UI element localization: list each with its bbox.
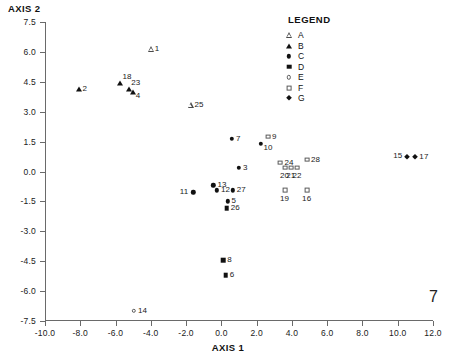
data-point-label: 15: [393, 151, 402, 160]
x-tick: [327, 321, 328, 326]
square-open-marker-icon: [282, 165, 287, 170]
legend-item-f: F: [282, 83, 331, 94]
data-point-label: 27: [237, 185, 246, 194]
data-point-label: 23: [131, 78, 140, 87]
data-point: [237, 165, 241, 169]
data-point: [148, 46, 154, 52]
legend-label: A: [296, 30, 304, 40]
legend-item-c: C: [282, 51, 331, 62]
x-tick: [151, 321, 152, 326]
data-point: [224, 206, 229, 211]
data-point-label: 25: [195, 100, 204, 109]
triangle-filled-marker-icon: [286, 43, 292, 48]
circle-filled-marker-icon: [215, 188, 219, 192]
y-tick: [40, 172, 45, 173]
data-point: [215, 188, 219, 192]
y-tick: [40, 261, 45, 262]
legend-symbol: [282, 41, 296, 51]
legend-rows: ABCDEFG: [282, 30, 331, 104]
data-point: [191, 190, 195, 194]
y-tick: [40, 112, 45, 113]
x-tick: [398, 321, 399, 326]
data-point: [289, 165, 294, 170]
square-filled-marker-icon: [224, 206, 229, 211]
data-point-label: 6: [230, 270, 235, 279]
square-filled-marker-icon: [287, 64, 292, 69]
data-point: [76, 86, 82, 91]
data-point-label: 18: [122, 72, 131, 81]
y-tick-label: 4.5: [24, 77, 36, 87]
data-point: [282, 188, 287, 193]
x-tick: [80, 321, 81, 326]
scatter-plot-figure: AXIS 2 AXIS 1 7.56.04.53.01.50.0-1.5-3.0…: [0, 0, 456, 361]
data-point: [211, 183, 215, 187]
data-point: [413, 154, 417, 158]
legend-item-e: E: [282, 72, 331, 83]
y-tick: [40, 291, 45, 292]
square-filled-marker-icon: [221, 258, 226, 263]
data-point-label: 14: [138, 306, 147, 315]
legend-label: F: [296, 83, 303, 93]
y-tick: [40, 82, 45, 83]
x-tick-label: 0.0: [215, 328, 227, 338]
data-point: [266, 134, 271, 139]
data-point-label: 3: [243, 163, 248, 172]
circle-filled-marker-icon: [287, 54, 291, 58]
legend-label: G: [296, 93, 305, 103]
circle-filled-marker-icon: [191, 190, 195, 194]
data-point-label: 16: [302, 194, 311, 203]
legend-symbol: [282, 62, 296, 72]
square-filled-marker-icon: [223, 273, 228, 278]
square-open-marker-icon: [295, 165, 300, 170]
data-point-label: 17: [419, 152, 428, 161]
y-tick-label: -3.0: [21, 226, 36, 236]
x-axis-title: AXIS 1: [0, 342, 456, 353]
legend-label: B: [296, 41, 304, 51]
legend-symbol: [282, 30, 296, 40]
legend-symbol: [282, 93, 296, 103]
data-point-label: 12: [221, 185, 230, 194]
legend-label: E: [296, 72, 304, 82]
y-tick-label: -6.0: [21, 286, 36, 296]
legend-symbol: [282, 51, 296, 61]
y-tick: [40, 142, 45, 143]
x-tick-label: 12.0: [424, 328, 441, 338]
legend-symbol: [282, 83, 296, 93]
triangle-filled-marker-icon: [76, 86, 82, 91]
x-axis-line: [45, 320, 433, 321]
triangle-open-marker-icon: [148, 46, 154, 52]
x-tick-label: 6.0: [321, 328, 333, 338]
square-open-marker-icon: [304, 188, 309, 193]
y-tick-label: 7.5: [24, 17, 36, 27]
circle-open-marker-icon: [287, 75, 291, 79]
x-tick-label: 10.0: [389, 328, 406, 338]
data-point: [304, 157, 309, 162]
x-tick: [362, 321, 363, 326]
diamond-filled-marker-icon: [412, 153, 418, 159]
x-tick-label: -2.0: [178, 328, 193, 338]
x-tick-label: -6.0: [108, 328, 123, 338]
x-tick: [116, 321, 117, 326]
legend-item-d: D: [282, 62, 331, 73]
x-tick-label: 4.0: [286, 328, 298, 338]
data-point: [230, 136, 234, 140]
y-tick: [40, 52, 45, 53]
circle-open-marker-icon: [132, 309, 136, 313]
y-axis-line: [45, 22, 46, 321]
square-open-marker-icon: [266, 134, 271, 139]
circle-filled-marker-icon: [230, 136, 234, 140]
data-point-label: 28: [311, 155, 320, 164]
y-tick-label: -1.5: [21, 196, 36, 206]
diamond-filled-marker-icon: [286, 95, 292, 101]
circle-filled-marker-icon: [225, 199, 229, 203]
data-point: [404, 154, 408, 158]
data-point: [225, 199, 229, 203]
data-point-label: 2: [83, 84, 88, 93]
y-tick-label: 1.5: [24, 137, 36, 147]
x-tick-label: 8.0: [356, 328, 368, 338]
data-point: [231, 188, 235, 192]
data-point-label: 11: [180, 187, 189, 196]
data-point: [223, 273, 228, 278]
y-tick-label: -4.5: [21, 256, 36, 266]
x-tick: [257, 321, 258, 326]
